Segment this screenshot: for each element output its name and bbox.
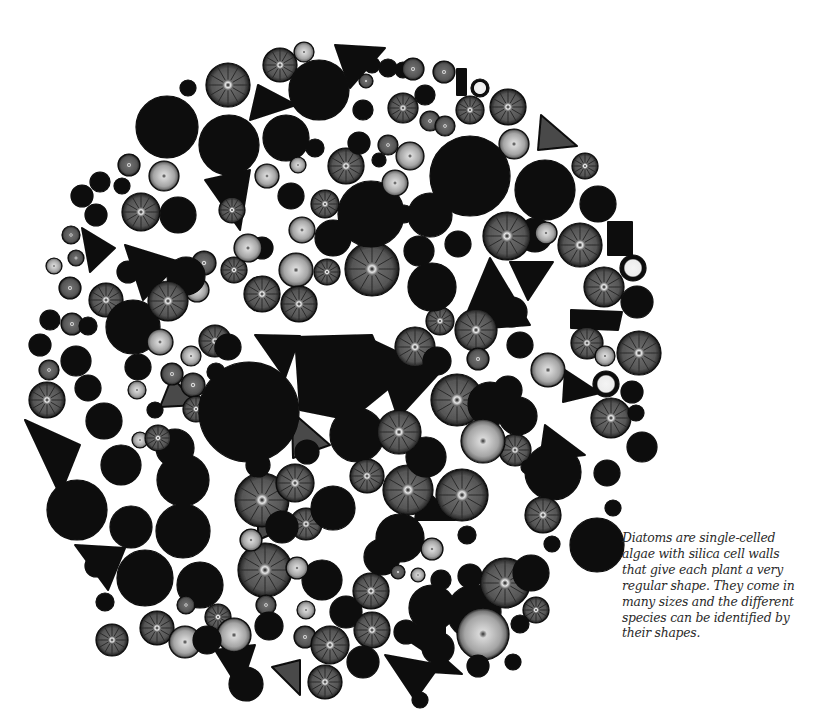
round-diatom (457, 608, 509, 660)
round-diatom (46, 258, 62, 274)
round-diatom (255, 612, 283, 640)
round-diatom (507, 332, 533, 358)
triangular-diatom (608, 222, 632, 255)
round-diatom (372, 153, 386, 167)
round-diatom (570, 518, 624, 572)
round-diatom (61, 346, 91, 376)
triangular-diatom (457, 69, 466, 95)
round-diatom (278, 183, 304, 209)
round-diatom (408, 263, 456, 311)
round-diatom (605, 500, 621, 516)
round-diatom (421, 538, 443, 560)
round-diatom (620, 255, 646, 281)
round-diatom (110, 506, 152, 548)
round-diatom (193, 626, 221, 654)
triangular-diatom (272, 660, 300, 695)
round-diatom (199, 115, 259, 175)
round-diatom (347, 646, 379, 678)
round-diatom (353, 100, 373, 120)
round-diatom (40, 310, 60, 330)
round-diatom (255, 164, 279, 188)
round-diatom (96, 593, 114, 611)
round-diatom (160, 197, 196, 233)
round-diatom (68, 250, 84, 266)
round-diatom (62, 226, 80, 244)
round-diatom (177, 596, 195, 614)
round-diatom (117, 550, 173, 606)
round-diatom (364, 57, 380, 73)
round-diatom (396, 142, 424, 170)
round-diatom (286, 557, 308, 579)
round-diatom (114, 178, 130, 194)
round-diatom (544, 536, 560, 552)
caption-line: algae with silica cell walls (622, 546, 829, 562)
round-diatom (181, 373, 205, 397)
round-diatom (593, 371, 619, 397)
round-diatom (47, 480, 107, 540)
round-diatom (411, 568, 425, 582)
round-diatom (391, 565, 405, 579)
round-diatom (467, 655, 489, 677)
triangular-diatom (571, 310, 622, 330)
round-diatom (125, 354, 151, 380)
round-diatom (156, 504, 210, 558)
round-diatom (71, 185, 93, 207)
round-diatom (435, 116, 455, 136)
round-diatom (39, 360, 59, 380)
round-diatom (290, 157, 306, 173)
round-diatom (266, 511, 298, 543)
round-diatom (627, 432, 657, 462)
round-diatom (117, 261, 139, 283)
round-diatom (505, 654, 521, 670)
round-diatom (621, 286, 653, 318)
round-diatom (445, 231, 471, 257)
round-diatom (628, 405, 644, 421)
round-diatom (402, 58, 424, 80)
round-diatom (161, 363, 183, 385)
caption-line: many sizes and the different (622, 594, 829, 610)
triangular-diatom (538, 115, 577, 150)
round-diatom (295, 440, 319, 464)
round-diatom (279, 253, 313, 287)
round-diatom (79, 317, 97, 335)
round-diatom (513, 555, 549, 591)
round-diatom (59, 277, 81, 299)
round-diatom (215, 334, 241, 360)
round-diatom (289, 217, 315, 243)
round-diatom (181, 346, 201, 366)
round-diatom (75, 375, 101, 401)
round-diatom (263, 115, 309, 161)
round-diatom (86, 403, 122, 439)
triangular-diatom (82, 228, 115, 272)
round-diatom (85, 555, 107, 577)
round-diatom (29, 334, 51, 356)
round-diatom (180, 80, 196, 96)
round-diatom (128, 381, 146, 399)
caption-line: Diatoms are single-celled (622, 530, 829, 546)
round-diatom (240, 529, 262, 551)
round-diatom (458, 564, 482, 588)
round-diatom (415, 85, 435, 105)
round-diatom (521, 460, 535, 474)
photo-caption: Diatoms are single-celled algae with sil… (622, 530, 829, 641)
round-diatom (515, 160, 575, 220)
round-diatom (422, 632, 454, 664)
caption-line: their shapes. (622, 625, 829, 641)
round-diatom (294, 42, 314, 62)
round-diatom (149, 161, 179, 191)
round-diatom (330, 408, 384, 462)
round-diatom (394, 620, 418, 644)
round-diatom (378, 135, 398, 155)
round-diatom (379, 59, 397, 77)
round-diatom (458, 526, 476, 544)
round-diatom (289, 60, 349, 120)
round-diatom (118, 154, 140, 176)
round-diatom (467, 348, 489, 370)
round-diatom (595, 346, 615, 366)
round-diatom (404, 236, 434, 266)
round-diatom (433, 61, 455, 83)
round-diatom (157, 454, 209, 506)
caption-line: species can be identified by (622, 610, 829, 626)
round-diatom (535, 222, 557, 244)
round-diatom (246, 453, 270, 477)
